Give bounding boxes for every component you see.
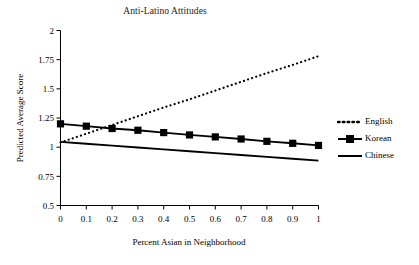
x-tick-label: 0.5 [184, 214, 196, 224]
x-tick-label: 0.6 [210, 214, 222, 224]
x-tick-label: 0.8 [261, 214, 273, 224]
x-tick-label: 0.1 [81, 214, 92, 224]
y-tick-label: 1.75 [38, 55, 54, 65]
x-axis-title: Percent Asian in Neighborhood [60, 237, 318, 247]
legend-item-korean: Korean [337, 130, 419, 147]
series-marker-korean [160, 129, 167, 136]
series-marker-korean [57, 120, 64, 127]
legend-item-chinese: Chinese [337, 147, 419, 164]
x-tick-label: 0.9 [287, 214, 299, 224]
y-tick-label: 2 [50, 26, 55, 36]
y-tick-label: 0.75 [38, 172, 54, 182]
chart-legend: English Korean Chinese [337, 113, 419, 164]
series-marker-korean [289, 140, 296, 147]
legend-label-english: English [363, 113, 393, 130]
series-marker-korean [186, 131, 193, 138]
legend-label-korean: Korean [363, 130, 392, 147]
series-marker-korean [83, 123, 90, 130]
series-marker-korean [134, 127, 141, 134]
x-tick-label: 0.4 [158, 214, 170, 224]
series-marker-korean [263, 138, 270, 145]
series-marker-korean [109, 125, 116, 132]
x-tick-label: 0.7 [235, 214, 247, 224]
legend-swatch-dotted-icon [337, 116, 363, 127]
y-tick-label: 1.25 [38, 113, 54, 123]
series-marker-korean [315, 142, 322, 149]
legend-swatch-square-marker-icon [337, 133, 363, 144]
x-tick-label: 0.2 [106, 214, 117, 224]
y-tick-label: 0.5 [43, 201, 55, 211]
x-tick-label: 0.3 [132, 214, 144, 224]
series-marker-korean [238, 135, 245, 142]
series-marker-korean [212, 133, 219, 140]
legend-swatch-solid-icon [337, 150, 363, 161]
y-tick-label: 1 [50, 142, 55, 152]
chart-container: Anti-Latino Attitudes Predicted Average … [0, 0, 419, 265]
x-tick-label: 0 [58, 214, 63, 224]
legend-item-english: English [337, 113, 419, 130]
y-tick-label: 1.5 [43, 84, 55, 94]
series-line-english [61, 56, 319, 142]
series-line-chinese [61, 142, 319, 161]
legend-label-chinese: Chinese [363, 147, 394, 164]
x-tick-label: 1 [316, 214, 321, 224]
